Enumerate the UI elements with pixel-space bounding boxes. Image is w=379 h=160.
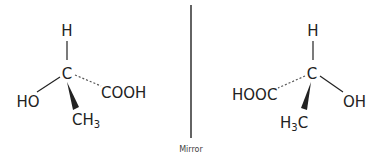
right-oh-group: OH <box>343 93 366 111</box>
left-molecule: H C HO COOH CH3 <box>16 22 146 130</box>
left-ch3-group: CH3 <box>72 111 100 130</box>
left-cooh-group: COOH <box>101 84 146 102</box>
right-dashed-bond <box>278 76 305 88</box>
right-molecule: H C OH HOOC H3C <box>232 22 366 133</box>
right-hooc-group: HOOC <box>232 86 277 104</box>
mirror-label: Mirror <box>179 145 203 154</box>
right-h-atom: H <box>307 22 318 40</box>
right-c-atom: C <box>307 65 317 83</box>
left-c-atom: C <box>62 65 72 83</box>
right-h3c-group: H3C <box>280 114 308 133</box>
right-wedge-bond <box>301 82 311 110</box>
left-h-atom: H <box>61 22 72 40</box>
left-dashed-bond <box>75 75 101 86</box>
enantiomer-diagram: Mirror H C HO COOH CH3 H C OH HOOC H3C <box>0 0 379 160</box>
left-c-oh-bond <box>37 77 60 92</box>
left-wedge-bond <box>67 82 79 110</box>
right-c-oh-bond <box>320 76 343 92</box>
left-ho-group: HO <box>16 93 39 111</box>
